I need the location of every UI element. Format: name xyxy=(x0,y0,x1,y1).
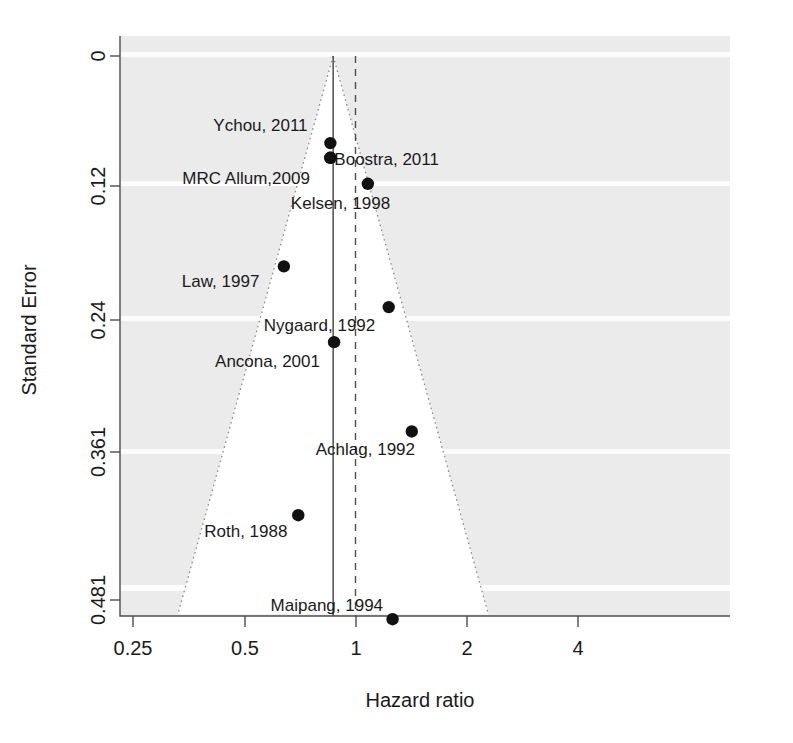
study-marker xyxy=(324,137,336,149)
study-label: Achlag, 1992 xyxy=(316,440,415,459)
study-marker xyxy=(328,336,340,348)
study-label: Ychou, 2011 xyxy=(213,116,307,135)
x-tick-label-3: 2 xyxy=(461,637,472,659)
y-tick-label-3: 0.361 xyxy=(87,427,109,477)
study-label: Roth, 1988 xyxy=(204,522,287,541)
y-axis-title: Standard Error xyxy=(18,264,40,396)
study-label: MRC Allum,2009 xyxy=(182,169,310,188)
study-marker xyxy=(386,613,398,625)
study-point-group: Maipang, 1994 xyxy=(271,596,399,625)
study-label: Maipang, 1994 xyxy=(271,596,383,615)
study-marker xyxy=(292,509,304,521)
study-label: Boostra, 2011 xyxy=(334,150,439,169)
study-marker xyxy=(324,152,336,164)
x-axis-title: Hazard ratio xyxy=(366,689,475,711)
study-marker xyxy=(362,178,374,190)
study-label: Ancona, 2001 xyxy=(215,352,320,371)
x-tick-label-0: 0.25 xyxy=(114,637,153,659)
study-marker xyxy=(383,301,395,313)
study-marker xyxy=(406,425,418,437)
x-tick-label-2: 1 xyxy=(350,637,361,659)
band-2 xyxy=(120,316,730,321)
x-tick-label-1: 0.5 xyxy=(231,637,259,659)
study-label: Kelsen, 1998 xyxy=(291,194,390,213)
y-tick-label-4: 0.481 xyxy=(87,575,109,625)
y-axis-ticks xyxy=(110,56,120,600)
x-axis-ticks xyxy=(133,616,578,627)
y-tick-label-0: 0 xyxy=(87,50,109,61)
funnel-plot-figure: 0 0.12 0.24 0.361 0.481 0.25 0.5 1 2 4 H… xyxy=(0,0,793,743)
y-tick-label-1: 0.12 xyxy=(87,167,109,206)
study-point-group: Boostra, 2011 xyxy=(324,150,439,169)
study-label: Law, 1997 xyxy=(182,272,260,291)
band-0 xyxy=(120,52,730,57)
y-axis-tick-labels: 0 0.12 0.24 0.361 0.481 xyxy=(87,50,109,625)
x-axis-tick-labels: 0.25 0.5 1 2 4 xyxy=(114,637,584,659)
study-marker xyxy=(278,260,290,272)
x-tick-label-4: 4 xyxy=(572,637,583,659)
funnel-plot-svg: 0 0.12 0.24 0.361 0.481 0.25 0.5 1 2 4 H… xyxy=(0,0,793,743)
y-tick-label-2: 0.24 xyxy=(87,301,109,340)
study-label: Nygaard, 1992 xyxy=(264,316,376,335)
